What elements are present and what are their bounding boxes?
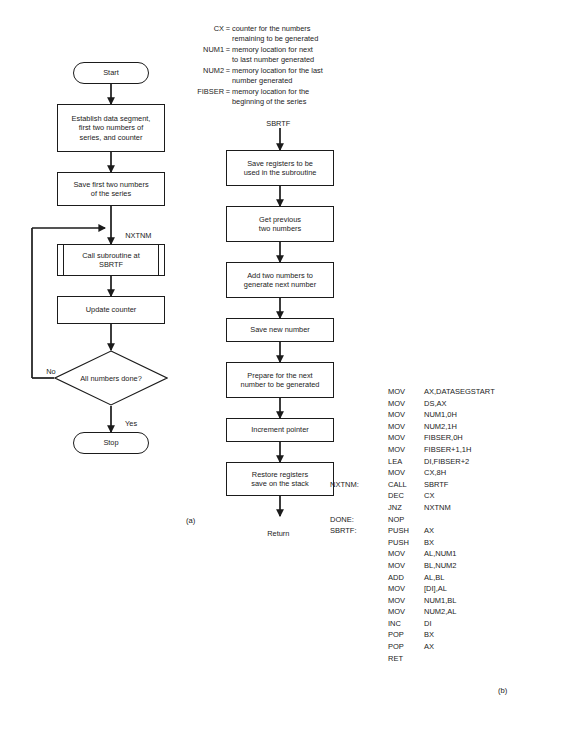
- legend-equals: =: [224, 66, 232, 86]
- code-label: [330, 467, 388, 479]
- code-label: [330, 560, 388, 572]
- code-line: NXTNM: CALL SBRTF: [330, 479, 495, 491]
- code-label: [330, 583, 388, 595]
- code-label: [330, 398, 388, 410]
- flow-stop-terminator[interactable]: Stop: [73, 432, 149, 454]
- code-mnemonic: INC: [388, 618, 424, 630]
- code-label: [330, 432, 388, 444]
- legend-definition: counter for the numbers remaining to be …: [232, 24, 418, 44]
- subroutine-return-text: Return: [267, 529, 289, 538]
- code-label: [330, 618, 388, 630]
- code-line: DONE: NOP: [330, 514, 495, 526]
- code-operands: [DI],AL: [424, 583, 495, 595]
- legend-symbol: CX: [178, 24, 224, 44]
- flow-box-call-subroutine-label: Call subroutine atSBRTF: [82, 251, 140, 269]
- flow-box-save-first-two[interactable]: Save first two numbersof the series: [57, 172, 165, 206]
- sub-box-increment-pointer-label: Increment pointer: [251, 425, 309, 434]
- code-label: SBRTF:: [330, 525, 388, 537]
- sub-box-save-new-number[interactable]: Save new number: [226, 318, 334, 342]
- subroutine-entry-text: SBRTF: [266, 119, 290, 128]
- code-line: MOV AL,NUM1: [330, 548, 495, 560]
- flow-box-call-subroutine-inner: Call subroutine atSBRTF: [63, 245, 159, 275]
- code-mnemonic: DEC: [388, 490, 424, 502]
- flow-branch-label-yes: Yes: [117, 410, 137, 437]
- diagram-canvas: CX = counter for the numbers remaining t…: [0, 0, 568, 732]
- flow-start-label: Start: [103, 68, 119, 77]
- legend-definition-line2: beginning of the series: [232, 97, 418, 107]
- sub-box-add-two[interactable]: Add two numbers togenerate next number: [226, 262, 334, 298]
- sub-box-save-registers-label: Save registers to beused in the subrouti…: [244, 159, 317, 177]
- code-line: PUSH BX: [330, 537, 495, 549]
- subroutine-return-label: Return: [259, 520, 289, 547]
- legend-definition-line2: to last number generated: [232, 55, 418, 65]
- code-mnemonic: LEA: [388, 456, 424, 468]
- code-mnemonic: POP: [388, 629, 424, 641]
- sub-box-restore-registers-label: Restore registerssave on the stack: [251, 470, 309, 488]
- code-mnemonic: POP: [388, 641, 424, 653]
- code-operands: SBRTF: [424, 479, 495, 491]
- code-label: [330, 572, 388, 584]
- code-operands: BL,NUM2: [424, 560, 495, 572]
- code-label: [330, 653, 388, 665]
- caption-a: (a): [186, 516, 195, 525]
- flow-stop-label: Stop: [103, 438, 118, 447]
- flow-branch-yes-text: Yes: [125, 419, 137, 428]
- legend-definition-line2: remaining to be generated: [232, 34, 418, 44]
- code-label: NXTNM:: [330, 479, 388, 491]
- code-mnemonic: PUSH: [388, 537, 424, 549]
- sub-box-save-registers[interactable]: Save registers to beused in the subrouti…: [226, 150, 334, 186]
- sub-box-prepare-next[interactable]: Prepare for the nextnumber to be generat…: [226, 362, 334, 398]
- code-operands: NXTNM: [424, 502, 495, 514]
- flow-box-update-counter[interactable]: Update counter: [57, 296, 165, 324]
- code-operands: AL,BL: [424, 572, 495, 584]
- code-label: [330, 386, 388, 398]
- code-operands: CX: [424, 490, 495, 502]
- legend-definition-line1: memory location for the: [232, 87, 309, 96]
- legend-symbol: NUM2: [178, 66, 224, 86]
- flow-branch-label-no: No: [38, 358, 56, 385]
- code-line: JNZ NXTNM: [330, 502, 495, 514]
- code-operands: DI,FIBSER+2: [424, 456, 495, 468]
- sub-box-restore-registers[interactable]: Restore registerssave on the stack: [226, 462, 334, 496]
- code-label: [330, 444, 388, 456]
- legend: CX = counter for the numbers remaining t…: [178, 24, 418, 108]
- flow-loop-label-nxtnm: NXTNM: [117, 222, 152, 249]
- code-mnemonic: MOV: [388, 548, 424, 560]
- code-mnemonic: ADD: [388, 572, 424, 584]
- code-mnemonic: MOV: [388, 595, 424, 607]
- legend-definition-line1: memory location for the last: [232, 66, 323, 75]
- code-operands: AX: [424, 525, 495, 537]
- sub-box-prepare-next-label: Prepare for the nextnumber to be generat…: [241, 371, 320, 389]
- sub-box-increment-pointer[interactable]: Increment pointer: [226, 418, 334, 442]
- code-line: SBRTF: PUSH AX: [330, 525, 495, 537]
- code-line: MOV NUM1,0H: [330, 409, 495, 421]
- code-line: MOV NUM2,1H: [330, 421, 495, 433]
- code-operands: [424, 514, 495, 526]
- sub-box-save-new-number-label: Save new number: [250, 325, 310, 334]
- code-mnemonic: JNZ: [388, 502, 424, 514]
- code-mnemonic: MOV: [388, 421, 424, 433]
- code-operands: NUM1,BL: [424, 595, 495, 607]
- flow-decision-all-numbers-done[interactable]: All numbers done?: [54, 350, 168, 406]
- code-label: [330, 641, 388, 653]
- legend-row: CX = counter for the numbers remaining t…: [178, 24, 418, 44]
- legend-row: FIBSER = memory location for the beginni…: [178, 87, 418, 107]
- code-line: MOV DS,AX: [330, 398, 495, 410]
- code-line: INC DI: [330, 618, 495, 630]
- code-label: [330, 409, 388, 421]
- legend-definition: memory location for the last number gene…: [232, 66, 418, 86]
- sub-box-get-previous[interactable]: Get previoustwo numbers: [226, 206, 334, 242]
- code-operands: CX,8H: [424, 467, 495, 479]
- legend-row: NUM1 = memory location for next to last …: [178, 45, 418, 65]
- caption-b: (b): [498, 686, 507, 695]
- legend-definition-line1: memory location for next: [232, 45, 313, 54]
- flow-start-terminator[interactable]: Start: [73, 62, 149, 84]
- flow-decision-label: All numbers done?: [54, 350, 168, 406]
- code-operands: BX: [424, 537, 495, 549]
- code-label: [330, 548, 388, 560]
- sub-box-get-previous-label: Get previoustwo numbers: [259, 215, 301, 233]
- legend-definition-line2: number generated: [232, 76, 418, 86]
- code-line: MOV NUM2,AL: [330, 606, 495, 618]
- flow-box-establish[interactable]: Establish data segment,first two numbers…: [57, 104, 165, 152]
- code-mnemonic: MOV: [388, 432, 424, 444]
